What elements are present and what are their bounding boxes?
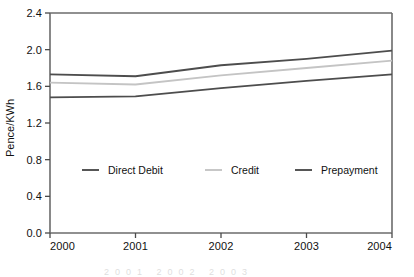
x-tick-label: 2004 (367, 240, 392, 252)
y-tick-label: 0.4 (26, 190, 42, 202)
y-tick-label: 1.2 (26, 117, 42, 129)
cropped-footer-label: 2001 2002 2003 (104, 267, 253, 277)
x-tick-label: 2003 (294, 240, 319, 252)
line-chart: 0.00.40.81.21.62.02.4 200020012002200320… (0, 0, 414, 277)
x-tick-label: 2001 (123, 240, 148, 252)
legend-label-direct-debit: Direct Debit (108, 164, 163, 176)
y-tick-label: 0.0 (26, 227, 42, 239)
cropped-footer-text: 2001 2002 2003 (0, 267, 414, 277)
chart-canvas: 0.00.40.81.21.62.02.4 200020012002200320… (0, 0, 414, 277)
x-tick-label: 2000 (50, 240, 75, 252)
y-tick-label: 2.0 (26, 44, 42, 56)
y-tick-label: 1.6 (26, 80, 42, 92)
x-tick-label: 2002 (209, 240, 234, 252)
y-axis-title: Pence/KWh (4, 99, 16, 157)
y-tick-label: 2.4 (26, 7, 42, 19)
y-tick-label: 0.8 (26, 154, 42, 166)
legend-label-prepayment: Prepayment (321, 164, 378, 176)
legend-label-credit: Credit (231, 164, 259, 176)
chart-background (0, 0, 414, 277)
